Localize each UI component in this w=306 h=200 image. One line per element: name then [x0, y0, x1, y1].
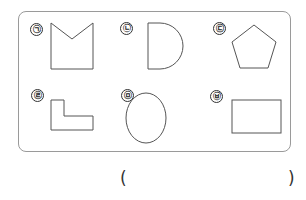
- notched-pentagon-shape: [51, 23, 93, 69]
- rectangle-shape: [232, 100, 281, 133]
- d-shape: [148, 23, 183, 69]
- answer-blank[interactable]: [128, 168, 286, 192]
- answer-close-paren: ): [288, 168, 295, 188]
- ellipse-shape: [126, 93, 166, 143]
- l-shape: [51, 100, 93, 130]
- answer-open-paren: (: [120, 168, 127, 188]
- pentagon-shape: [232, 25, 276, 68]
